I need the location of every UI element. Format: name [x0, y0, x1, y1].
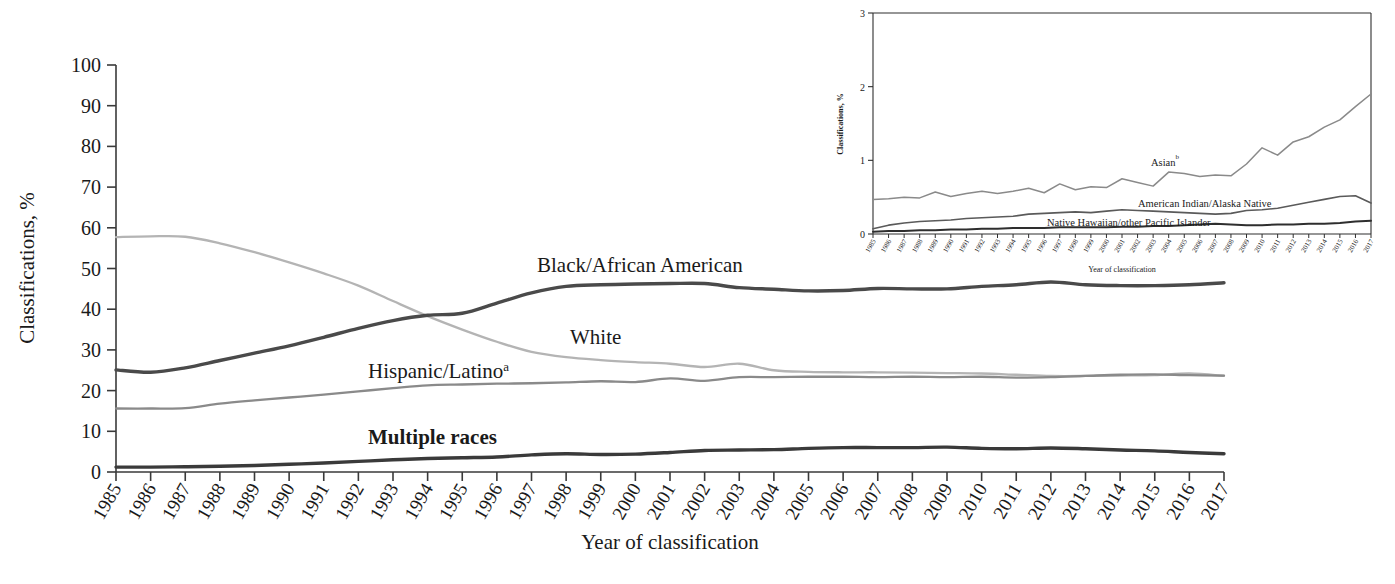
figure-container: 0102030405060708090100Classifications, %…	[0, 0, 1395, 584]
main-y-tick-label: 90	[81, 95, 101, 117]
inset-x-tick-label: 1998	[1066, 238, 1080, 255]
inset-x-axis-title: Year of classification	[1088, 265, 1156, 274]
inset-label-nhopi: Native Hawaiian/other Pacific Islander	[1047, 217, 1211, 228]
inset-label-aian: American Indian/Alaska Native	[1138, 198, 1272, 209]
main-x-tick-label: 2004	[746, 479, 783, 523]
main-x-tick-label: 2016	[1162, 480, 1199, 523]
inset-x-tick-label: 1994	[1004, 238, 1018, 255]
chart-svg: 0102030405060708090100Classifications, %…	[0, 0, 1395, 584]
main-x-tick-label: 2017	[1196, 480, 1233, 523]
main-x-tick-label: 2013	[1058, 480, 1095, 523]
main-x-tick-label: 2003	[712, 480, 749, 523]
inset-x-tick-label: 2008	[1222, 238, 1236, 255]
main-x-tick-label: 1999	[573, 480, 610, 523]
main-x-tick-label: 2014	[1092, 479, 1129, 523]
main-x-tick-label: 2009	[919, 480, 956, 523]
main-x-tick-label: 2011	[989, 480, 1026, 523]
inset-x-tick-label: 2002	[1128, 238, 1142, 255]
inset-x-tick-label: 1997	[1051, 238, 1065, 255]
inset-chart: 0123Classifications, %198519861987198819…	[836, 8, 1376, 274]
main-y-tick-label: 10	[81, 420, 101, 442]
main-x-tick-label: 2002	[677, 480, 714, 523]
main-x-tick-label: 1993	[365, 480, 402, 523]
main-label-hispanic: Hispanic/Latino	[368, 359, 503, 383]
main-y-tick-label: 60	[81, 217, 101, 239]
main-label-black: Black/African American	[537, 253, 743, 277]
inset-x-tick-label: 2013	[1300, 238, 1314, 255]
main-x-tick-label: 1987	[158, 480, 195, 523]
inset-y-tick-label: 1	[860, 155, 865, 166]
inset-x-tick-label: 2016	[1346, 238, 1360, 255]
inset-x-tick-label: 2000	[1097, 238, 1111, 255]
inset-x-tick-label: 2005	[1175, 238, 1189, 255]
main-x-tick-label: 2010	[954, 480, 991, 523]
inset-x-tick-label: 1995	[1019, 238, 1033, 255]
inset-x-tick-label: 2011	[1269, 238, 1283, 254]
inset-x-tick-label: 2012	[1284, 238, 1298, 255]
inset-series-line	[873, 94, 1371, 199]
main-y-axis-title: Classifications, %	[15, 192, 39, 344]
inset-x-tick-label: 1992	[973, 238, 987, 255]
main-series-line	[116, 282, 1224, 372]
inset-y-tick-label: 0	[860, 229, 865, 240]
main-x-tick-label: 2015	[1127, 480, 1164, 523]
inset-x-tick-label: 2010	[1253, 238, 1267, 255]
main-x-tick-label: 1997	[504, 480, 541, 523]
main-y-tick-label: 80	[81, 135, 101, 157]
main-y-tick-label: 30	[81, 339, 101, 361]
main-x-tick-label: 2008	[885, 480, 922, 523]
main-x-axis-title: Year of classification	[581, 530, 759, 554]
main-y-tick-label: 100	[71, 54, 101, 76]
main-y-tick-label: 70	[81, 176, 101, 198]
main-x-tick-label: 1989	[227, 480, 264, 523]
main-x-tick-label: 2001	[642, 480, 679, 523]
main-label-hispanic-superscript: a	[503, 359, 509, 374]
main-x-tick-label: 2005	[781, 480, 818, 523]
main-x-tick-label: 1996	[469, 480, 506, 523]
main-x-tick-label: 1990	[261, 480, 298, 523]
inset-label-asian: Asian	[1151, 157, 1176, 168]
main-y-tick-label: 40	[81, 298, 101, 320]
inset-x-tick-label: 2004	[1159, 238, 1173, 255]
inset-x-tick-label: 1986	[879, 238, 893, 255]
inset-x-tick-label: 2015	[1331, 238, 1345, 255]
inset-x-tick-label: 1987	[895, 238, 909, 255]
main-label-multiple: Multiple races	[368, 425, 497, 449]
inset-x-tick-label: 1985	[864, 238, 878, 255]
main-x-tick-label: 1988	[192, 480, 229, 523]
main-x-tick-label: 1991	[296, 480, 333, 523]
inset-x-tick-label: 2001	[1113, 238, 1127, 255]
inset-x-tick-label: 1989	[926, 238, 940, 255]
inset-y-tick-label: 3	[860, 8, 865, 19]
inset-x-tick-label: 1990	[942, 238, 956, 255]
main-series-line	[116, 447, 1224, 467]
main-chart: 0102030405060708090100Classifications, %…	[15, 54, 1233, 554]
inset-x-tick-label: 2003	[1144, 238, 1158, 255]
inset-x-tick-label: 2014	[1315, 238, 1329, 255]
main-x-tick-label: 1985	[88, 480, 125, 523]
main-x-tick-label: 1995	[435, 480, 472, 523]
inset-x-tick-label: 1988	[910, 238, 924, 255]
main-label-white: White	[570, 325, 621, 349]
inset-x-tick-label: 1996	[1035, 238, 1049, 255]
main-x-tick-label: 2006	[815, 480, 852, 523]
inset-x-tick-label: 2006	[1191, 238, 1205, 255]
main-y-tick-label: 0	[91, 461, 101, 483]
inset-x-tick-label: 1993	[988, 238, 1002, 255]
inset-y-axis-title: Classifications, %	[836, 93, 845, 154]
inset-label-asian-superscript: b	[1176, 153, 1180, 161]
main-x-tick-label: 1992	[331, 480, 368, 523]
inset-x-tick-label: 2017	[1362, 238, 1376, 255]
main-y-tick-label: 50	[81, 258, 101, 280]
inset-x-tick-label: 1999	[1082, 238, 1096, 255]
main-x-tick-label: 1986	[123, 480, 160, 523]
inset-x-tick-label: 2007	[1206, 238, 1220, 255]
main-x-tick-label: 1998	[538, 480, 575, 523]
inset-x-tick-label: 1991	[957, 238, 971, 255]
inset-y-tick-label: 2	[860, 82, 865, 93]
inset-x-tick-label: 2009	[1237, 238, 1251, 255]
main-x-tick-label: 2000	[608, 480, 645, 523]
main-x-tick-label: 2012	[1023, 480, 1060, 523]
main-x-tick-label: 1994	[400, 479, 437, 523]
main-y-tick-label: 20	[81, 380, 101, 402]
